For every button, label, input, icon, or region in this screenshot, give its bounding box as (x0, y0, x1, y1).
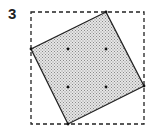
rotated-square (31, 12, 144, 124)
rotated-square-diagram (0, 0, 152, 126)
